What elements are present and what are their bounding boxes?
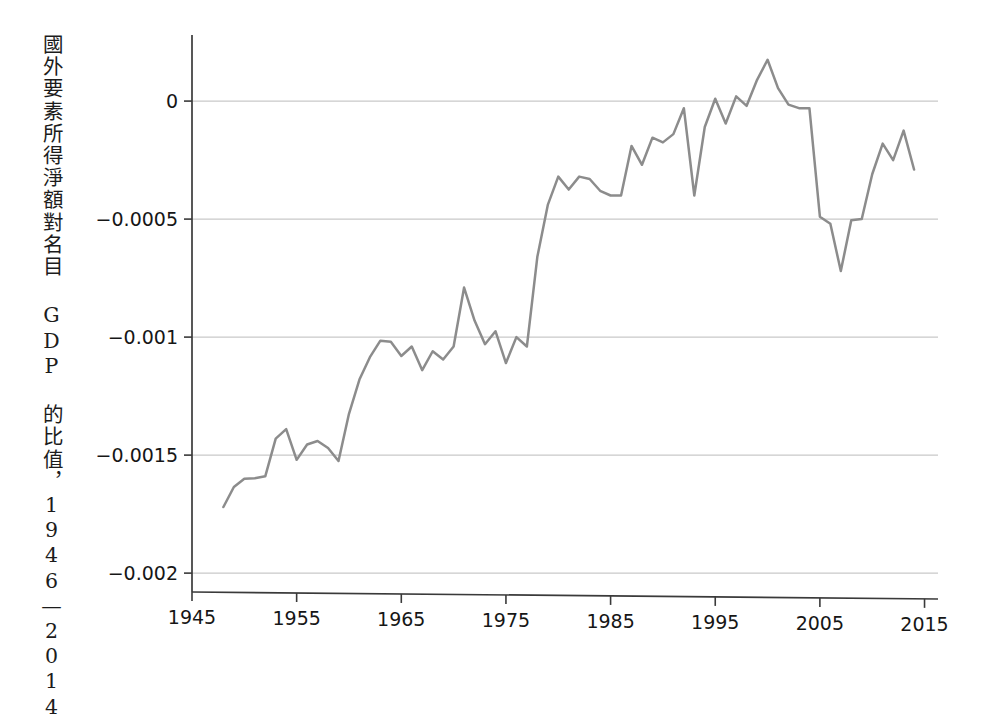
gridlines-group: [192, 101, 938, 573]
x-tick-label-7: 2015: [900, 613, 948, 635]
y-tick-label-2: −0.001: [0, 326, 178, 348]
x-tick-label-3: 1975: [482, 609, 530, 631]
data-line-series-0: [223, 60, 914, 507]
x-tick-label-1: 1955: [272, 607, 320, 629]
y-tick-label-1: −0.0005: [0, 208, 178, 230]
axis-spines-group: [192, 35, 938, 599]
x-tick-label-4: 1985: [586, 610, 634, 632]
data-series-group: [223, 60, 914, 507]
x-tick-label-5: 1995: [691, 611, 739, 633]
y-tick-label-0: 0: [0, 90, 178, 112]
tick-marks-group: [184, 101, 925, 608]
x-tick-label-2: 1965: [377, 608, 425, 630]
x-tick-label-0: 1945: [168, 606, 216, 628]
y-tick-label-4: −0.002: [0, 562, 178, 584]
y-tick-label-3: −0.0015: [0, 444, 178, 466]
x-axis-spine: [192, 592, 938, 599]
x-tick-label-6: 2005: [796, 612, 844, 634]
